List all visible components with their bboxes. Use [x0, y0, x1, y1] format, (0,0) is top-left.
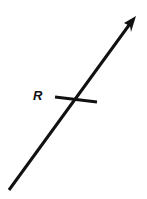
r-label: R [33, 89, 42, 102]
diagram-svg [0, 0, 147, 199]
diagram-canvas: R [0, 0, 147, 199]
vector-arrow [9, 21, 132, 190]
